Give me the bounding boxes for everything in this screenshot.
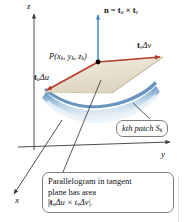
surface-patch-figure: z y x n = tu × tv tvΔv tuΔu P(xk, yk, zk… [0, 0, 186, 222]
y-axis-label: y [161, 150, 165, 159]
y-axis [18, 142, 170, 147]
normal-label-head: n = t [104, 5, 121, 15]
callout-area-line3: |tuΔu × tvΔv|. [48, 197, 168, 208]
tangent-u-label-delta: Δu [40, 72, 49, 82]
tangent-u-label: tuΔu [34, 73, 49, 82]
point-label-close: ) [84, 51, 87, 61]
x-axis-label: x [15, 196, 19, 205]
normal-vector-label: n = tu × tv [104, 6, 138, 15]
callout-kth-patch: kth patch Sk [116, 120, 168, 137]
callout-parallelogram-area: Parallelogram in tangent plane has area … [42, 172, 174, 213]
tangent-plane-parallelogram [45, 57, 163, 93]
z-axis-label: z [27, 2, 31, 11]
normal-label-cross: × t [124, 5, 136, 15]
point-P-label: P(xk, yk, zk) [49, 52, 87, 61]
callout-area-line3-dv: Δv|. [80, 197, 93, 207]
callout-patch-text: kth patch S [122, 123, 160, 133]
tangent-v-label-delta: Δv [142, 40, 151, 50]
point-label-mid2: , z [74, 51, 82, 61]
callout-patch-sub: k [160, 127, 163, 133]
parallelogram-face [45, 57, 163, 93]
point-P-dot [96, 60, 101, 65]
point-label-open: P(x [49, 51, 61, 61]
callout-area-line1: Parallelogram in tangent [48, 176, 168, 187]
tangent-v-label: tvΔv [137, 41, 151, 50]
callout-area-line3-du: Δu × t [56, 197, 78, 207]
leader-line-area [63, 80, 101, 172]
normal-label-sub-v: v [135, 9, 138, 15]
callout-area-line2: plane has area [48, 187, 168, 198]
